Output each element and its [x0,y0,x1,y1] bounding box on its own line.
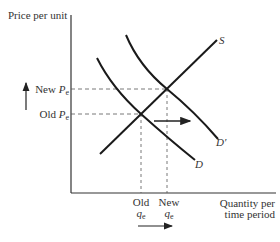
new-price-label: New Pe [35,83,69,97]
old-price-label: Old Pe [39,108,69,122]
demand-shifted-curve-label: D′ [215,136,227,148]
supply-curve [100,40,217,154]
supply-curve-label: S [219,34,225,46]
demand-curve-label: D [194,158,203,170]
y-axis-label: Price per unit [8,9,67,21]
x-axis-label-line2: time period [225,208,276,220]
new-quantity-label-symbol: qe [164,207,174,221]
demand-shifted-curve [126,35,218,139]
supply-demand-diagram: Price per unit Quantity per time period … [0,0,280,242]
old-quantity-label-symbol: qe [136,207,146,221]
